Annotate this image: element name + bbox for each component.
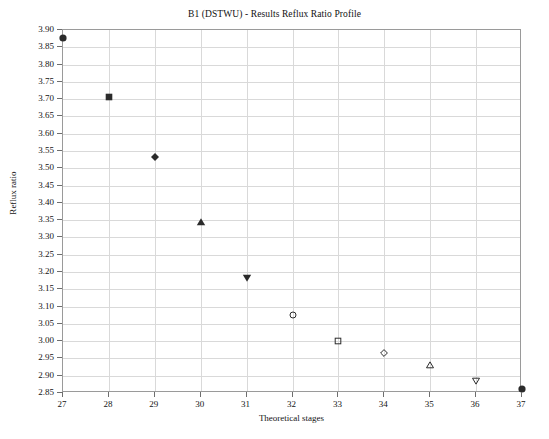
x-tick-mark	[108, 392, 109, 397]
gridline-horizontal	[63, 255, 520, 256]
gridline-vertical	[293, 30, 294, 391]
gridline-horizontal	[63, 116, 520, 117]
y-tick-label: 3.45	[14, 180, 54, 190]
y-tick-mark	[57, 323, 62, 324]
gridline-horizontal	[63, 186, 520, 187]
x-tick-mark	[475, 392, 476, 397]
y-tick-label: 3.15	[14, 283, 54, 293]
y-tick-mark	[57, 375, 62, 376]
y-tick-mark	[57, 150, 62, 151]
reflux-ratio-chart: B1 (DSTWU) - Results Reflux Ratio Profil…	[0, 0, 549, 439]
data-point-marker[interactable]	[334, 337, 343, 346]
x-tick-mark	[521, 392, 522, 397]
y-tick-label: 3.55	[14, 145, 54, 155]
gridline-horizontal	[63, 324, 520, 325]
y-tick-mark	[57, 357, 62, 358]
y-tick-label: 3.90	[14, 24, 54, 34]
gridline-vertical	[155, 30, 156, 391]
y-tick-label: 3.65	[14, 110, 54, 120]
y-tick-mark	[57, 29, 62, 30]
gridline-horizontal	[63, 376, 520, 377]
y-tick-mark	[57, 133, 62, 134]
gridline-vertical	[109, 30, 110, 391]
gridline-horizontal	[63, 151, 520, 152]
data-point-marker[interactable]	[288, 311, 297, 320]
gridline-horizontal	[63, 65, 520, 66]
y-tick-label: 2.95	[14, 352, 54, 362]
y-tick-label: 3.70	[14, 93, 54, 103]
data-point-marker[interactable]	[425, 360, 435, 370]
x-tick-mark	[292, 392, 293, 397]
data-point-marker[interactable]	[150, 152, 160, 162]
x-tick-label: 30	[185, 399, 215, 409]
y-tick-label: 3.30	[14, 231, 54, 241]
y-tick-mark	[57, 306, 62, 307]
x-tick-label: 27	[47, 399, 77, 409]
data-point-marker[interactable]	[242, 273, 252, 283]
x-tick-mark	[200, 392, 201, 397]
y-tick-mark	[57, 288, 62, 289]
y-tick-mark	[57, 236, 62, 237]
data-point-marker[interactable]	[518, 384, 527, 393]
x-tick-label: 37	[506, 399, 536, 409]
gridline-vertical	[430, 30, 431, 391]
plot-area	[62, 29, 521, 392]
y-axis-title: Reflux ratio	[8, 143, 18, 243]
gridline-horizontal	[63, 237, 520, 238]
gridline-horizontal	[63, 168, 520, 169]
y-tick-mark	[57, 115, 62, 116]
x-tick-mark	[246, 392, 247, 397]
chart-title: B1 (DSTWU) - Results Reflux Ratio Profil…	[0, 9, 549, 19]
data-point-marker[interactable]	[379, 348, 389, 358]
y-tick-label: 3.25	[14, 249, 54, 259]
y-tick-label: 3.05	[14, 318, 54, 328]
y-tick-mark	[57, 46, 62, 47]
y-tick-label: 3.80	[14, 59, 54, 69]
y-tick-label: 3.75	[14, 76, 54, 86]
y-tick-label: 3.60	[14, 128, 54, 138]
y-tick-mark	[57, 219, 62, 220]
x-tick-label: 29	[139, 399, 169, 409]
x-tick-mark	[337, 392, 338, 397]
y-tick-label: 3.10	[14, 301, 54, 311]
y-tick-label: 3.50	[14, 162, 54, 172]
y-tick-mark	[57, 271, 62, 272]
y-tick-label: 3.40	[14, 197, 54, 207]
y-tick-mark	[57, 81, 62, 82]
gridline-horizontal	[63, 99, 520, 100]
gridline-horizontal	[63, 341, 520, 342]
x-tick-label: 33	[322, 399, 352, 409]
y-tick-label: 3.20	[14, 266, 54, 276]
y-tick-label: 2.85	[14, 387, 54, 397]
x-tick-label: 28	[93, 399, 123, 409]
y-tick-mark	[57, 202, 62, 203]
x-axis-title: Theoretical stages	[62, 413, 521, 423]
data-point-marker[interactable]	[59, 33, 68, 42]
gridline-vertical	[476, 30, 477, 391]
y-tick-label: 3.35	[14, 214, 54, 224]
x-tick-label: 35	[414, 399, 444, 409]
gridline-horizontal	[63, 307, 520, 308]
gridline-horizontal	[63, 47, 520, 48]
y-tick-mark	[57, 167, 62, 168]
y-tick-mark	[57, 98, 62, 99]
x-tick-mark	[429, 392, 430, 397]
y-tick-label: 3.00	[14, 335, 54, 345]
gridline-horizontal	[63, 203, 520, 204]
gridline-horizontal	[63, 272, 520, 273]
gridline-horizontal	[63, 358, 520, 359]
x-tick-mark	[154, 392, 155, 397]
y-tick-label: 2.90	[14, 370, 54, 380]
y-tick-mark	[57, 185, 62, 186]
y-tick-mark	[57, 340, 62, 341]
data-point-marker[interactable]	[471, 376, 481, 386]
gridline-vertical	[201, 30, 202, 391]
gridline-vertical	[247, 30, 248, 391]
y-tick-mark	[57, 254, 62, 255]
data-point-marker[interactable]	[196, 217, 206, 227]
data-point-marker[interactable]	[104, 93, 113, 102]
x-tick-mark	[383, 392, 384, 397]
gridline-horizontal	[63, 220, 520, 221]
y-tick-mark	[57, 64, 62, 65]
gridline-vertical	[384, 30, 385, 391]
